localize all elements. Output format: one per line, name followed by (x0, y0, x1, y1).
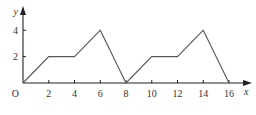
y-tick-label: 4 (13, 25, 18, 36)
x-tick-label: 4 (72, 88, 77, 99)
x-tick-label: 14 (198, 88, 208, 99)
x-tick-label: 10 (147, 88, 157, 99)
x-tick-label: 6 (98, 88, 103, 99)
labels: 24681012141624Oxy (12, 6, 249, 99)
x-tick-label: 2 (46, 88, 51, 99)
axes (20, 6, 252, 86)
y-axis-label: y (13, 6, 19, 17)
data-series (23, 30, 229, 83)
y-axis-arrow-icon (20, 6, 26, 15)
line-chart: 24681012141624Oxy (0, 0, 256, 115)
y-tick-label: 2 (13, 51, 18, 62)
origin-label: O (12, 88, 19, 99)
x-axis-label: x (243, 86, 249, 97)
series-line (23, 30, 229, 83)
x-tick-label: 8 (124, 88, 129, 99)
x-tick-label: 12 (173, 88, 183, 99)
x-tick-label: 16 (224, 88, 234, 99)
